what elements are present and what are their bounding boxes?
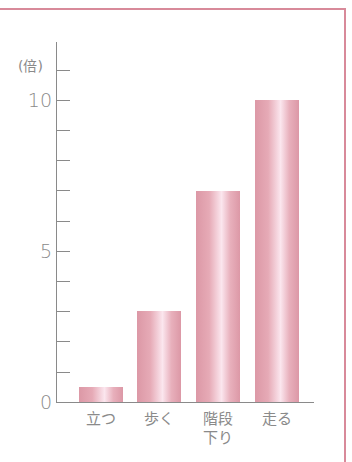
y-tick-1 <box>57 372 70 373</box>
y-tick-2 <box>57 341 70 342</box>
y-tick-5 <box>57 251 70 252</box>
y-tick-7 <box>57 190 70 191</box>
x-label-line: 立つ <box>71 410 131 429</box>
y-axis <box>56 42 57 403</box>
frame-top-border <box>0 8 346 10</box>
x-label-walking: 歩く <box>129 410 189 429</box>
bar-standing <box>79 387 123 402</box>
x-label-line: 走る <box>247 410 307 429</box>
y-tick-label-0: 0 <box>40 393 52 412</box>
y-tick-6 <box>57 221 70 222</box>
y-tick-label-10: 10 <box>28 91 52 110</box>
x-axis <box>56 402 314 403</box>
y-axis-unit-label: (倍) <box>18 59 43 73</box>
y-tick-8 <box>57 160 70 161</box>
y-tick-label-5: 5 <box>40 242 52 261</box>
frame-right-border <box>344 8 346 462</box>
y-tick-3 <box>57 311 70 312</box>
y-tick-9 <box>57 130 70 131</box>
y-tick-unit <box>57 70 70 71</box>
y-tick-10 <box>57 100 70 101</box>
x-label-standing: 立つ <box>71 410 131 429</box>
y-tick-4 <box>57 281 70 282</box>
bar-walking <box>137 311 181 402</box>
x-label-line-2: 下り <box>188 429 248 448</box>
bar-running <box>255 100 299 402</box>
x-label-line: 歩く <box>129 410 189 429</box>
x-label-line-1: 階段 <box>188 410 248 429</box>
bar-descending-stairs <box>196 191 240 402</box>
x-label-descending-stairs: 階段 下り <box>188 410 248 448</box>
x-label-running: 走る <box>247 410 307 429</box>
